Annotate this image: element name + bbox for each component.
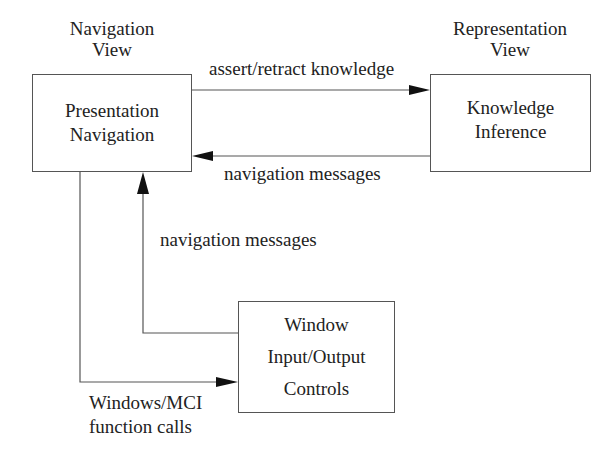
node-line: Window (284, 309, 349, 341)
edge-function-calls (80, 171, 238, 387)
node-line: Inference (475, 120, 547, 144)
node-line: Input/Output (267, 341, 365, 373)
node-line: Navigation (70, 123, 154, 147)
window-io-controls-box: Window Input/Output Controls (238, 301, 395, 413)
edge-navigation-messages-bottom (137, 172, 238, 333)
node-line: Controls (284, 373, 349, 405)
arrowhead-right-icon (216, 377, 238, 387)
arrowhead-right-icon (409, 85, 430, 95)
architecture-diagram: Navigation View Representation View Pres… (0, 0, 615, 453)
assert-retract-label: assert/retract knowledge (209, 58, 394, 79)
edge-label-line: Windows/MCI (89, 391, 202, 415)
navigation-view-caption: Navigation View (62, 18, 162, 60)
representation-view-box: Knowledge Inference (430, 74, 591, 172)
caption-line: Navigation (70, 18, 154, 39)
node-line: Presentation (65, 99, 159, 123)
edge-label-line: function calls (89, 415, 192, 439)
arrowhead-up-icon (137, 172, 149, 194)
representation-view-caption: Representation View (440, 18, 580, 60)
caption-line: View (490, 39, 530, 60)
arrowhead-left-icon (192, 151, 213, 161)
navigation-messages-bottom-label: navigation messages (160, 229, 317, 250)
caption-line: View (92, 39, 132, 60)
node-line: Knowledge (467, 96, 555, 120)
function-calls-label: Windows/MCI function calls (89, 391, 202, 439)
navigation-view-box: Presentation Navigation (32, 74, 192, 172)
edge-assert-retract (191, 85, 430, 95)
caption-line: Representation (453, 18, 567, 39)
edge-navigation-messages-top (192, 151, 430, 161)
navigation-messages-top-label: navigation messages (224, 163, 381, 184)
